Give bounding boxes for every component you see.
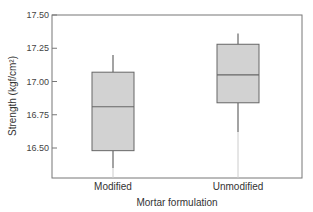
x-axis-title: Mortar formulation xyxy=(136,197,217,208)
iqr-box xyxy=(92,72,134,150)
iqr-box xyxy=(217,44,259,103)
x-tick-label: Modified xyxy=(94,181,132,192)
boxes xyxy=(92,34,259,178)
y-axis-title: Strength (kgf/cm²) xyxy=(7,56,18,136)
x-tick-label: Unmodified xyxy=(213,181,264,192)
box-plot: 17.5017.2517.0016.7516.50 ModifiedUnmodi… xyxy=(0,0,313,212)
y-tick-label: 16.50 xyxy=(26,143,49,153)
y-tick-label: 17.25 xyxy=(26,43,49,53)
box-unmodified xyxy=(217,34,259,178)
y-tick-label: 17.00 xyxy=(26,77,49,87)
plot-frame xyxy=(52,15,302,178)
y-tick-label: 16.75 xyxy=(26,110,49,120)
y-tick-label: 17.50 xyxy=(26,10,49,20)
box-modified xyxy=(92,55,134,178)
x-axis: ModifiedUnmodified xyxy=(94,181,263,192)
